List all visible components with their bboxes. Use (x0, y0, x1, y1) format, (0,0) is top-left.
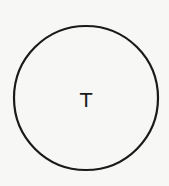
diagram-canvas: T (0, 0, 169, 186)
node-label: T (79, 88, 93, 112)
node-t[interactable]: T (14, 26, 158, 170)
diagram-svg: T (0, 0, 169, 186)
